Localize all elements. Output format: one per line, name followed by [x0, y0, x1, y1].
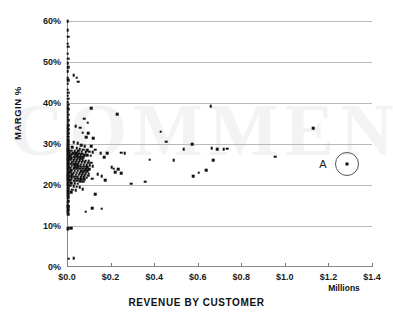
x-axis-tick-label: $1.2	[320, 272, 338, 282]
x-axis-tick	[198, 263, 199, 267]
scatter-point	[67, 79, 70, 82]
chart-container: COMMENTS MARGIN % 0%10%20%30%40%50%60%$0…	[0, 0, 393, 325]
annotation-label: A	[319, 158, 326, 170]
scatter-point	[84, 210, 87, 213]
scatter-point	[130, 182, 133, 185]
scatter-point	[312, 127, 315, 130]
scatter-point	[70, 191, 73, 194]
scatter-point	[67, 57, 70, 60]
scatter-point	[67, 213, 70, 216]
y-axis-tick-label: 20%	[43, 180, 61, 190]
scatter-point	[67, 66, 70, 69]
scatter-point	[94, 193, 97, 196]
scatter-point	[76, 76, 79, 79]
scatter-point	[123, 152, 126, 155]
scatter-point	[67, 42, 70, 45]
x-axis-tick	[154, 263, 155, 267]
scatter-point	[101, 175, 104, 178]
scatter-point	[172, 159, 175, 162]
scatter-point	[103, 156, 106, 159]
scatter-point	[86, 121, 89, 124]
scatter-point	[67, 70, 70, 73]
scatter-point	[84, 151, 87, 154]
scatter-point	[74, 125, 77, 128]
scatter-point	[77, 80, 80, 83]
scatter-point	[120, 151, 123, 154]
scatter-point	[87, 132, 90, 135]
y-axis-title: MARGIN %	[12, 86, 23, 140]
gridline-y	[67, 144, 372, 145]
scatter-point	[191, 143, 194, 146]
scatter-point	[212, 159, 215, 162]
scatter-point	[80, 144, 83, 147]
scatter-point	[99, 152, 102, 155]
y-axis-tick-label: 0%	[48, 262, 61, 272]
scatter-point	[67, 82, 70, 85]
scatter-point	[159, 130, 162, 133]
scatter-point	[84, 145, 87, 148]
gridline-y	[67, 185, 372, 186]
scatter-point	[144, 180, 147, 183]
scatter-point	[67, 20, 70, 23]
scatter-point	[72, 257, 75, 260]
y-axis-tick-label: 40%	[43, 98, 61, 108]
scatter-point	[88, 150, 91, 153]
scatter-point	[116, 113, 119, 116]
scatter-point	[92, 137, 95, 140]
y-axis-tick-label: 50%	[43, 57, 61, 67]
x-axis-tick-label: $1.4	[363, 272, 381, 282]
scatter-point	[90, 107, 93, 110]
scatter-point	[198, 171, 201, 174]
y-axis-tick-label: 60%	[43, 16, 61, 26]
y-axis-tick-label: 10%	[43, 221, 61, 231]
scatter-point	[165, 140, 168, 143]
scatter-point	[77, 142, 80, 145]
scatter-point	[81, 131, 84, 134]
x-axis-tick	[372, 263, 373, 267]
scatter-point	[106, 152, 109, 155]
scatter-point	[71, 146, 74, 149]
scatter-point	[96, 173, 99, 176]
scatter-point	[85, 136, 88, 139]
scatter-point	[223, 148, 226, 151]
x-axis-tick-label: $0.2	[102, 272, 120, 282]
x-axis-tick	[328, 263, 329, 267]
scatter-point	[148, 158, 151, 161]
x-axis-tick	[111, 263, 112, 267]
scatter-point	[67, 228, 70, 231]
scatter-point	[94, 148, 97, 151]
scatter-point	[209, 105, 212, 108]
scatter-point	[67, 62, 70, 65]
scatter-point	[114, 171, 117, 174]
scatter-point	[91, 178, 94, 181]
x-axis-tick-label: $0.8	[233, 272, 251, 282]
gridline-y	[67, 62, 372, 63]
scatter-point	[226, 147, 229, 150]
plot-area: 0%10%20%30%40%50%60%$0.0$0.2$0.4$0.6$0.8…	[67, 21, 372, 267]
x-axis-tick-label: $0.6	[189, 272, 207, 282]
scatter-point	[67, 98, 70, 101]
scatter-point	[89, 155, 92, 158]
scatter-point	[205, 169, 208, 172]
scatter-point	[192, 175, 195, 178]
scatter-point	[66, 53, 69, 56]
scatter-point	[274, 155, 277, 158]
scatter-point	[90, 145, 93, 148]
x-axis-units-label: Millions	[328, 283, 360, 293]
scatter-point	[67, 258, 70, 261]
scatter-point	[67, 46, 70, 49]
x-axis-title: REVENUE BY CUSTOMER	[0, 297, 393, 308]
scatter-point	[101, 207, 104, 210]
scatter-point	[66, 29, 69, 32]
scatter-point	[91, 151, 94, 154]
x-axis-line	[67, 266, 372, 267]
scatter-point	[91, 165, 94, 168]
x-axis-tick	[67, 263, 68, 267]
scatter-point	[79, 126, 82, 129]
scatter-point	[81, 188, 84, 191]
x-axis-tick-label: $0.0	[58, 272, 76, 282]
scatter-point	[91, 207, 94, 210]
gridline-y	[67, 21, 372, 22]
scatter-point	[74, 189, 77, 192]
gridline-y	[67, 103, 372, 104]
